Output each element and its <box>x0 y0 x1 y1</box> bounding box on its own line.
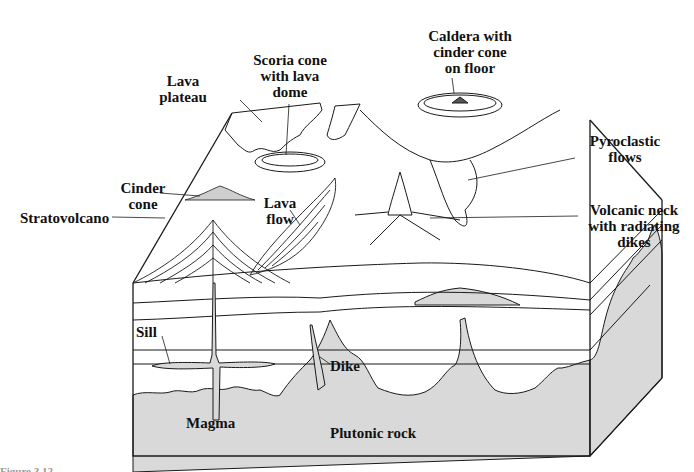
label-stratovolcano: Stratovolcano <box>20 210 109 226</box>
stratum-line <box>133 263 590 283</box>
plutonic-rock-fill <box>133 318 590 472</box>
stratum-line <box>133 292 590 303</box>
leader-scoria <box>286 104 289 155</box>
label-cinder-cone: Cinder cone <box>118 180 168 212</box>
figure-caption: Figure 3.12 <box>0 462 53 472</box>
scoria-cone-drawing <box>255 152 325 172</box>
label-caldera: Caldera with cinder cone on floor <box>420 28 520 76</box>
label-sill: Sill <box>136 324 157 340</box>
label-lava-plateau: Lava plateau <box>148 73 218 105</box>
label-plutonic-rock: Plutonic rock <box>330 425 416 441</box>
label-volcanic-neck: Volcanic neck with radiating dikes <box>578 202 690 250</box>
label-dike: Dike <box>330 358 360 374</box>
leader-strato <box>112 217 165 218</box>
plutonic-rock-side-fill <box>590 225 662 456</box>
leader-plateau <box>240 100 262 122</box>
lava-plateau-drawing <box>225 103 360 152</box>
laccolith-fill <box>415 288 520 305</box>
label-magma: Magma <box>186 415 235 431</box>
leader-pyroclastic <box>468 158 575 180</box>
stratum-line <box>133 306 590 320</box>
label-lava-flow: Lava flow <box>260 195 300 227</box>
label-pyroclastic-flows: Pyroclastic flows <box>575 133 675 165</box>
volcanic-neck-drawing <box>355 172 460 245</box>
label-scoria-cone: Scoria cone with lava dome <box>245 52 335 100</box>
cinder-cone-drawing <box>185 186 255 200</box>
leader-caldera <box>452 78 454 93</box>
